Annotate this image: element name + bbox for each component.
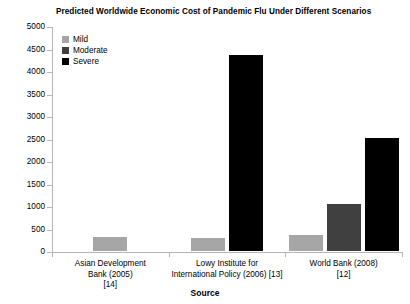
y-tick-3000: 3000 [0,113,52,121]
bar-mild-cat2[interactable] [288,234,324,252]
x-tick-mark [169,252,170,257]
bar-mild-cat0[interactable] [92,236,128,252]
bar-mild-cat1[interactable] [190,237,226,252]
y-tick-500: 500 [0,226,52,234]
x-axis-line [52,252,402,253]
y-tick-2500: 2500 [0,136,52,144]
x-category-label-2: World Bank (2008) [12] [275,259,410,280]
y-tick-3500: 3500 [0,91,52,99]
bar-severe-cat2[interactable] [364,137,400,252]
y-tick-1500: 1500 [0,181,52,189]
x-axis-title: Source [0,288,410,298]
y-tick-5000: 5000 [0,23,52,31]
y-tick-2000: 2000 [0,158,52,166]
chart-title: Predicted Worldwide Economic Cost of Pan… [56,7,406,17]
bar-chart: Predicted Worldwide Economic Cost of Pan… [0,0,410,304]
bar-moderate-cat2[interactable] [326,203,362,253]
bar-severe-cat1[interactable] [228,54,264,252]
y-tick-1000: 1000 [0,203,52,211]
y-tick-0: 0 [0,248,52,256]
y-tick-4000: 4000 [0,68,52,76]
x-tick-mark [285,252,286,257]
y-tick-4500: 4500 [0,46,52,54]
plot-area [52,27,402,252]
x-tick-mark [402,252,403,257]
x-tick-mark [52,252,53,257]
